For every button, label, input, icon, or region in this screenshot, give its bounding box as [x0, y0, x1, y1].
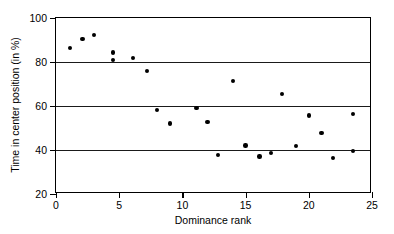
data-point: [351, 149, 355, 153]
y-tick-mark-60: [50, 106, 56, 107]
gridline-y-40: [56, 150, 370, 151]
data-point: [111, 50, 115, 54]
data-point: [155, 108, 159, 112]
data-point: [319, 131, 323, 135]
data-point: [269, 151, 273, 155]
x-tick-label-10: 10: [177, 200, 189, 211]
plot-area: 20406080100 0510152025: [55, 17, 371, 193]
x-tick-label-0: 0: [53, 200, 59, 211]
y-tick-mark-40: [50, 150, 56, 151]
x-tick-mark-15: [246, 192, 247, 198]
y-tick-label-40: 40: [35, 145, 47, 156]
x-axis-title: Dominance rank: [55, 214, 371, 226]
data-point: [111, 58, 115, 62]
y-tick-label-60: 60: [35, 101, 47, 112]
data-point: [131, 56, 135, 60]
gridline-y-60: [56, 106, 370, 107]
data-point: [243, 143, 247, 147]
x-tick-label-25: 25: [366, 200, 378, 211]
data-point: [280, 92, 284, 96]
data-point: [307, 113, 311, 117]
y-tick-label-80: 80: [35, 57, 47, 68]
data-point: [351, 112, 355, 116]
x-tick-mark-0: [56, 192, 57, 198]
y-tick-mark-100: [50, 18, 56, 19]
x-tick-mark-5: [119, 192, 120, 198]
data-point: [294, 144, 298, 148]
y-tick-mark-80: [50, 62, 56, 63]
x-tick-label-5: 5: [116, 200, 122, 211]
data-point: [331, 156, 335, 160]
data-point: [168, 121, 172, 125]
x-tick-mark-10: [182, 192, 183, 198]
x-tick-label-15: 15: [240, 200, 252, 211]
y-tick-label-20: 20: [35, 189, 47, 200]
data-point: [80, 37, 84, 41]
x-tick-mark-25: [372, 192, 373, 198]
data-point: [92, 33, 96, 37]
data-point: [205, 120, 209, 124]
data-point: [68, 46, 72, 50]
data-point: [194, 106, 198, 110]
gridline-y-80: [56, 62, 370, 63]
data-point: [145, 69, 149, 73]
y-tick-label-100: 100: [29, 13, 47, 24]
data-point: [231, 79, 235, 83]
y-axis-title: Time in center position (in %): [8, 17, 22, 193]
data-point: [257, 154, 261, 158]
x-tick-mark-20: [309, 192, 310, 198]
scatter-plot-figure: Time in center position (in %) 204060801…: [0, 0, 394, 234]
data-point: [216, 153, 220, 157]
x-tick-label-20: 20: [303, 200, 315, 211]
